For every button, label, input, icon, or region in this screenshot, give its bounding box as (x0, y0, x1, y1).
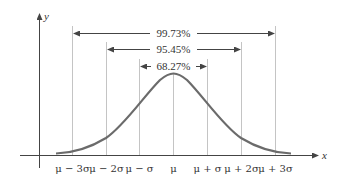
svg-text:μ − 2σ: μ − 2σ (89, 163, 124, 174)
x-axis-label: x (321, 149, 327, 161)
svg-text:μ + 2σ: μ + 2σ (224, 163, 259, 174)
normal-distribution-diagram: 99.73% 95.45% 68.27% y x μ − 3σ μ − 2σ μ… (0, 0, 341, 183)
svg-text:μ − σ: μ − σ (125, 163, 153, 174)
svg-text:μ + 3σ: μ + 3σ (258, 163, 293, 174)
y-axis-label: y (43, 10, 49, 22)
interval-label-99: 99.73% (157, 27, 191, 39)
svg-text:μ − 3σ: μ − 3σ (55, 163, 90, 174)
svg-text:μ: μ (170, 163, 177, 174)
interval-label-68: 68.27% (157, 60, 191, 72)
tick-labels: μ − 3σ μ − 2σ μ − σ μ μ + σ μ + 2σ μ + 3… (55, 163, 293, 174)
interval-label-95: 95.45% (157, 43, 191, 55)
svg-text:μ + σ: μ + σ (193, 163, 221, 174)
